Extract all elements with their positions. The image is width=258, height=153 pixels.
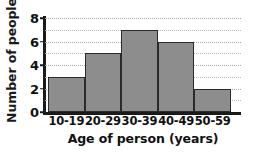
bar — [48, 77, 85, 112]
y-axis-tick-label: 4 — [30, 59, 39, 72]
bar — [194, 89, 231, 113]
bar — [158, 42, 195, 113]
x-axis-tick-labels: 10-1920-2930-3940-4950-59 — [45, 115, 241, 129]
plot-area — [45, 18, 241, 112]
bar — [121, 30, 158, 112]
bar — [85, 53, 122, 112]
x-axis-tick-label: 20-29 — [85, 115, 121, 128]
y-axis-tick-label: 0 — [30, 106, 39, 119]
x-axis-title: Age of person (years) — [45, 131, 241, 146]
y-axis-tick-labels: 02468 — [22, 0, 42, 153]
histogram-chart: Number of people 02468 10-1920-2930-3940… — [0, 0, 258, 153]
y-axis-tick-label: 6 — [30, 35, 39, 48]
y-axis-title: Number of people — [0, 0, 22, 120]
bars-layer — [45, 18, 241, 112]
x-axis-tick-label: 40-49 — [158, 115, 194, 128]
x-axis-tick-label: 30-39 — [122, 115, 158, 128]
y-axis-tick-label: 2 — [30, 82, 39, 95]
x-axis-tick-label: 10-19 — [48, 115, 84, 128]
y-axis-tick-label: 8 — [30, 12, 39, 25]
x-axis-tick-label: 50-59 — [195, 115, 231, 128]
y-axis-title-text: Number of people — [4, 0, 19, 122]
